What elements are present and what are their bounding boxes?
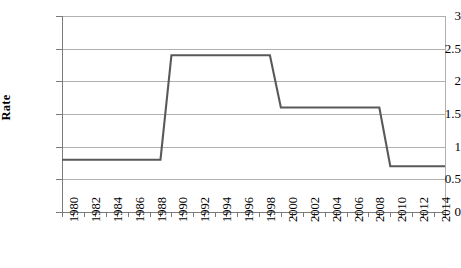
series-line-rate	[62, 55, 445, 166]
series-layer	[0, 0, 461, 268]
rate-line-chart: Rate 32.521.510.50 198019821984198619881…	[0, 0, 461, 268]
